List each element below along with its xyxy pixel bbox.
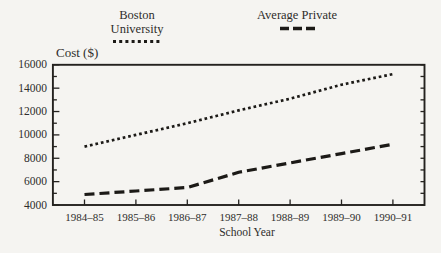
y-axis-tick-label: 8000	[6, 152, 47, 165]
y-axis-tick-label: 4000	[6, 199, 47, 212]
y-axis-tick-label: 14000	[6, 82, 47, 95]
chart-frame	[53, 65, 425, 205]
y-axis-tick-label: 6000	[6, 175, 47, 188]
x-axis-title: School Year	[202, 226, 292, 239]
series-line-boston-university	[85, 74, 393, 147]
axis-ticks	[53, 65, 425, 205]
y-axis-tick-label: 16000	[6, 58, 47, 71]
x-axis-tick-label: 1990–91	[361, 211, 425, 224]
cost-line-chart-figure: Boston University Average Private Cost (…	[0, 0, 441, 253]
y-axis-tick-label: 12000	[6, 105, 47, 118]
series-line-average-private	[85, 144, 393, 194]
y-axis-tick-label: 10000	[6, 128, 47, 141]
